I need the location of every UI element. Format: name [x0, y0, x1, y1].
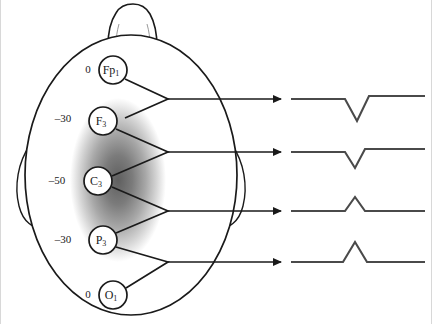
waveform-group: [291, 96, 425, 262]
electrode-p3-subscript: 3: [102, 239, 106, 248]
voltage-p3: –30: [54, 233, 72, 245]
voltage-f3: –30: [54, 112, 72, 124]
electrode-c3-subscript: 3: [98, 180, 102, 189]
eeg-montage-figure: Fp1 0 F3 –30 C3 –50 P3: [0, 0, 432, 324]
voltage-o1: 0: [85, 288, 91, 300]
waveform-f3-c3: [291, 149, 425, 168]
waveform-c3-p3: [291, 197, 425, 211]
electrode-f3[interactable]: F3: [89, 107, 117, 135]
voltage-c3: –50: [48, 174, 66, 186]
waveform-fp1-f3: [291, 96, 425, 121]
electrode-c3[interactable]: C3: [84, 167, 112, 195]
voltage-fp1: 0: [85, 63, 91, 75]
electrode-f3-subscript: 3: [102, 120, 106, 129]
electrode-fp1[interactable]: Fp1: [99, 56, 127, 84]
electrode-fp1-subscript: 1: [115, 69, 119, 78]
electrode-p3[interactable]: P3: [89, 226, 117, 254]
waveform-p3-o1: [291, 242, 425, 262]
electrode-c3-label: C: [90, 174, 98, 188]
electrode-fp1-label: Fp: [103, 63, 116, 77]
electrode-o1-subscript: 1: [113, 294, 117, 303]
figure-canvas: Fp1 0 F3 –30 C3 –50 P3: [0, 0, 432, 324]
electrode-o1[interactable]: O1: [99, 281, 127, 309]
electrode-o1-label: O: [105, 288, 114, 302]
